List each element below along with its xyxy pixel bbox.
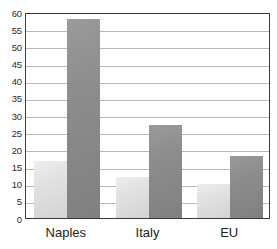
bar-eu-light xyxy=(197,184,230,218)
gridline xyxy=(26,117,269,118)
bar-eu-dark xyxy=(230,156,263,218)
y-axis-tick-label: 40 xyxy=(0,77,22,86)
y-axis-tick-label: 55 xyxy=(0,26,22,35)
bar-chart: 051015202530354045505560 NaplesItalyEU xyxy=(0,0,277,249)
y-axis-tick-label: 5 xyxy=(0,197,22,206)
gridline xyxy=(26,100,269,101)
plot-area xyxy=(25,13,270,219)
bar-naples-light xyxy=(34,161,67,218)
bar-italy-light xyxy=(116,177,149,218)
y-axis-tick-label: 45 xyxy=(0,60,22,69)
y-axis-tick-label: 35 xyxy=(0,94,22,103)
y-axis-tick-label: 20 xyxy=(0,146,22,155)
bar-naples-dark xyxy=(67,19,100,218)
y-axis-tick-label: 25 xyxy=(0,129,22,138)
x-axis-label-naples: Naples xyxy=(25,224,107,242)
gridline xyxy=(26,134,269,135)
y-axis-tick-label: 30 xyxy=(0,112,22,121)
y-axis-tick-label: 60 xyxy=(0,9,22,18)
y-axis-tick-label: 15 xyxy=(0,163,22,172)
y-axis-tick-label: 0 xyxy=(0,215,22,224)
x-axis-label-eu: EU xyxy=(188,224,270,242)
y-axis-tick-label: 10 xyxy=(0,180,22,189)
gridline xyxy=(26,48,269,49)
bar-italy-dark xyxy=(149,125,182,218)
gridline xyxy=(26,83,269,84)
x-axis: NaplesItalyEU xyxy=(25,224,270,246)
chart-title-cutoff xyxy=(0,0,277,3)
x-axis-label-italy: Italy xyxy=(107,224,189,242)
gridline xyxy=(26,151,269,152)
y-axis: 051015202530354045505560 xyxy=(0,13,22,219)
gridline xyxy=(26,66,269,67)
y-axis-tick-label: 50 xyxy=(0,43,22,52)
gridline xyxy=(26,31,269,32)
